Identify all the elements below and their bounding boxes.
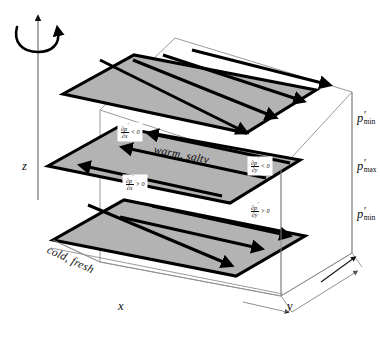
pressure-label-min-upper: p′min [357,112,377,125]
prime-mark: ′ [127,122,128,128]
rotation-arrow [16,27,58,52]
gradient-label-dpdy-negative: ∂p′ ∂y < 0 [248,157,272,175]
comparison: > 0 [136,181,145,187]
gradient-label-dpdx-negative: ∂p′ ∂x < 0 [118,123,142,141]
pressure-label-min-lower: p′min [357,208,377,221]
pressure-subscript: max [364,165,377,174]
prime-mark: ′ [257,201,258,207]
isopycnal-sheet-top [63,50,326,133]
fraction-numerator: ∂p′ [250,203,259,211]
gradient-label-dpdy-positive: ∂p′ ∂y > 0 [248,202,272,220]
pressure-label-max: p′max [357,160,379,173]
figure-canvas: z x y warm, salty cold, fresh p′min p′ma… [0,0,380,342]
fraction-denominator: ∂x [121,132,129,139]
fraction-numerator: ∂p′ [125,176,134,184]
pressure-subscript: min [364,213,376,222]
fraction-numerator: ∂p′ [120,124,129,132]
y-axis [281,253,362,312]
fraction-numerator: ∂p′ [250,158,259,166]
fraction: ∂p′ ∂x [125,176,134,192]
prime-mark: ′ [257,156,258,162]
comparison: > 0 [261,208,270,214]
pressure-subscript: min [364,117,376,126]
y-axis-label: y [287,300,293,313]
gradient-label-dpdx-positive: ∂p′ ∂x > 0 [123,175,147,193]
z-axis-label: z [22,160,27,173]
fraction-denominator: ∂x [126,184,134,191]
fraction: ∂p′ ∂y [250,158,259,174]
prime-mark: ′ [132,174,133,180]
comparison: < 0 [131,129,140,135]
diagram-svg [0,0,380,342]
fraction: ∂p′ ∂y [250,203,259,219]
x-axis-label: x [118,300,124,313]
fraction: ∂p′ ∂x [120,124,129,140]
fraction-denominator: ∂y [251,211,259,218]
fraction-denominator: ∂y [251,166,259,173]
comparison: < 0 [261,163,270,169]
